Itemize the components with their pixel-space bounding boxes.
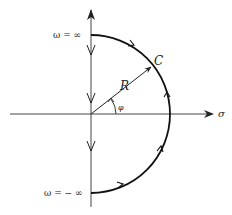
omega-neg-label: ω = − ∞ [44, 188, 83, 198]
contour-label: C [154, 54, 163, 68]
omega-pos-label: ω = ∞ [53, 30, 81, 40]
radius-label: R [119, 79, 129, 93]
nyquist-contour-diagram: ω = ∞ ω = − ∞ C R φ σ [0, 0, 232, 215]
angle-label: φ [118, 103, 124, 112]
sigma-axis-label: σ [218, 108, 226, 119]
